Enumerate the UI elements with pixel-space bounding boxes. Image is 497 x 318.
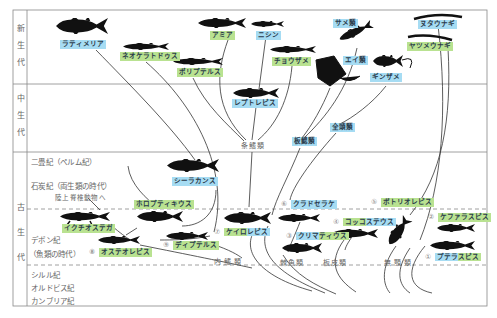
sturgeon-silhouette [270, 45, 316, 53]
label-polypterus: ポリプテルス [177, 68, 223, 77]
label-part: プテラ [435, 253, 458, 261]
era-char: 古 [14, 195, 27, 220]
label-neoceratodus: ネオケラトドゥス [120, 52, 180, 61]
era-char: 生 [14, 37, 27, 54]
group-holocephali: 全頭類 [330, 123, 355, 132]
period-silurian: シルル紀 [31, 269, 60, 280]
number-1: ① [425, 253, 431, 261]
period-cambrian: カンブリア紀 [31, 295, 75, 306]
label-herring: ニシン [256, 31, 281, 40]
label-chimaera: ギンザメ [370, 73, 402, 82]
label-part: スピス [458, 253, 481, 261]
label-part: クリマ [296, 232, 319, 240]
number-4: ④ [333, 218, 339, 226]
label-sturgeon: チョウザメ [272, 57, 311, 66]
fish-evolution-diagram: 新 生 代 中 生 代 古 生 代 二畳紀（ペルム紀） 石炭紀（両生類の時代） … [0, 0, 497, 318]
lamprey-silhouette [408, 36, 452, 40]
label-sharks: サメ類 [333, 19, 358, 28]
group-agnatha: 無顎類 [384, 257, 414, 267]
label-coelacanth: シーラカンス [172, 177, 218, 186]
group-sarcopterygii: 内鰭類 [214, 256, 244, 266]
label-latimeria: ラティメリア [60, 40, 106, 49]
osteolepis-silhouette [98, 235, 140, 245]
number-6: ⑥ [281, 200, 287, 208]
group-placodermi: 板皮類 [323, 257, 347, 267]
note-to-tetrapods: 陸上脊椎動物へ [55, 192, 106, 202]
period-devonian-note: （魚類の時代） [29, 248, 80, 259]
leptolepis-silhouette [233, 87, 279, 99]
climatius-silhouette [282, 242, 322, 254]
label-bothriolepis: ボトリオレピス [381, 198, 434, 207]
group-actinopterygii: 条鰭類 [241, 140, 265, 150]
coelacanth-silhouette [167, 158, 219, 174]
label-hagfish: ヌタウナギ [418, 20, 457, 29]
label-part: コッコ [343, 218, 366, 226]
ichthyostega-silhouette [60, 211, 110, 225]
era-char: 代 [14, 124, 27, 141]
pteraspis-silhouette [430, 240, 475, 251]
period-carboniferous: 石炭紀（両生類の時代） [31, 180, 111, 191]
label-cladoselache: クラドセラケ [291, 200, 337, 209]
label-holoptychius: ホロプティキウス [134, 200, 194, 209]
era-label-cenozoic: 新 生 代 [14, 20, 27, 71]
label-amia: アミア [210, 31, 235, 40]
era-label-mesozoic: 中 生 代 [14, 90, 27, 141]
number-2: ② [428, 213, 434, 221]
number-3: ③ [286, 232, 292, 240]
period-ordovician: オルドビス紀 [31, 282, 75, 293]
number-8: ⑧ [89, 248, 95, 256]
era-char: 中 [14, 90, 27, 107]
cephalaspis-silhouette [437, 223, 475, 233]
cheirolepis-silhouette [224, 211, 271, 225]
chimaera-silhouette [373, 54, 412, 68]
label-dipterus: ディプテルス [173, 241, 219, 250]
latimeria-silhouette [56, 16, 108, 35]
era-label-paleozoic: 古 生 代 [14, 195, 27, 270]
label-part: ステウス [366, 218, 396, 226]
cladoselache-silhouette [278, 213, 320, 223]
label-coccosteus: コッコステウス [343, 218, 396, 227]
label-pteraspis: プテラスピス [435, 253, 481, 262]
polypterus-silhouette [173, 57, 223, 65]
group-acanthodii: 棘魚類 [280, 257, 304, 267]
label-leptolepis: レプトレピス [232, 99, 278, 108]
number-9: ⑨ [163, 241, 169, 249]
label-cheirolepis: ケイロレピス [224, 228, 270, 237]
era-char: 新 [14, 20, 27, 37]
era-char: 生 [14, 220, 27, 245]
label-rays: エイ類 [343, 56, 368, 65]
era-char: 代 [14, 245, 27, 270]
era-char: 代 [14, 54, 27, 71]
number-5: ⑤ [371, 198, 377, 206]
label-part: ケイロ [224, 228, 247, 236]
number-7: ⑦ [214, 228, 220, 236]
label-lamprey: ヤツメウナギ [407, 42, 453, 51]
label-cephalaspis: ケファラスピス [438, 213, 491, 222]
hagfish-silhouette [414, 15, 462, 19]
group-elasmobranchii: 板鰓類 [292, 137, 317, 146]
label-part: レピス [247, 228, 270, 236]
label-climatius: クリマティウス [296, 232, 349, 241]
herring-silhouette [251, 20, 284, 27]
period-devonian: デボン紀 [31, 234, 60, 245]
label-ichthyostega: イクチオステガ [62, 224, 115, 233]
era-char: 生 [14, 107, 27, 124]
period-permian: 二畳紀（ペルム紀） [31, 156, 97, 167]
holoptychius-silhouette [137, 210, 183, 223]
neoceratodus-silhouette [123, 42, 169, 50]
label-osteolepis: オステオレピス [99, 248, 152, 257]
label-part: ティウス [319, 232, 349, 240]
amia-silhouette [198, 17, 246, 29]
